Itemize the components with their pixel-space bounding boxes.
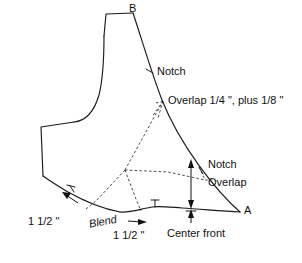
arrow-head-down — [188, 200, 194, 209]
annotation-overlap-upper: Overlap 1/4 ", plus 1/8 " — [168, 95, 283, 106]
arrow-head-hem-dim — [138, 219, 147, 225]
outline-lower-left-edge — [43, 176, 120, 212]
annotation-notch-right: Notch — [208, 159, 237, 170]
notch-tick-lower-left — [67, 185, 75, 192]
dart-line-lower-center — [125, 170, 141, 211]
annotation-center-front: Center front — [167, 228, 225, 239]
point-label-b: B — [129, 3, 136, 14]
annotation-overlap-right: Overlap — [208, 177, 247, 188]
point-label-a: A — [244, 205, 251, 216]
outline-armhole-curve — [74, 36, 104, 122]
dart-line-upper-left-leg — [125, 101, 163, 170]
outline-left-side — [41, 122, 74, 176]
outline-hem-curve — [120, 207, 240, 213]
annotation-blend-dimension: 1 1/2 " — [28, 216, 59, 227]
dart-line-horizontal-right — [125, 170, 205, 180]
notch-tick-hem — [151, 200, 159, 207]
pattern-diagram: B A Notch Overlap 1/4 ", plus 1/8 " Notc… — [0, 0, 302, 263]
annotation-notch-upper: Notch — [157, 66, 186, 77]
annotation-hem-dimension: 1 1/2 " — [113, 230, 144, 241]
outline-collar-top — [104, 13, 133, 36]
dart-overlap-v-left — [152, 101, 163, 117]
arrow-head-center-front — [188, 209, 194, 218]
arrow-head-up — [188, 159, 194, 168]
